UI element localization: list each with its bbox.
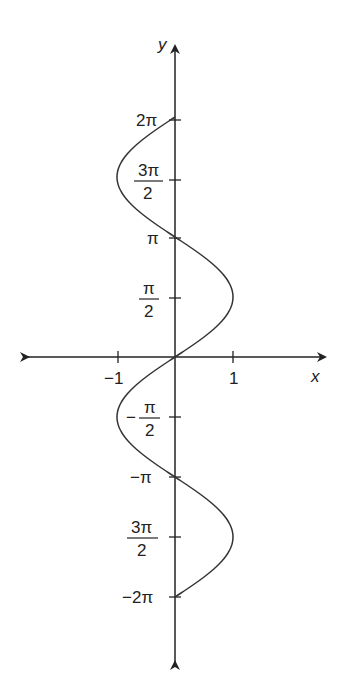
y-label-pi2-den: 2	[144, 302, 153, 321]
y-axis-label: y	[157, 35, 168, 54]
y-label-pi2-num: π	[143, 279, 155, 298]
y-label-negpi2-den: 2	[145, 421, 154, 440]
y-label-neg3pi2-num: 3π	[131, 518, 152, 537]
y-label-negpi2-num: π	[144, 398, 156, 417]
y-label-2pi: 2π	[136, 111, 157, 130]
x-axis-label: x	[310, 367, 320, 386]
y-label-negpi2-minus: −	[126, 408, 136, 427]
y-label-neg3pi2-den: 2	[137, 541, 146, 560]
x-tick-label-1: 1	[229, 369, 238, 388]
y-label-pi: π	[147, 229, 159, 248]
y-label-3pi2-num: 3π	[138, 161, 159, 180]
y-label-negpi: −π	[130, 468, 152, 487]
chart: y x −1 1 2π 3π 2 π π 2 − π 2 −π 3π 2 −2π	[0, 0, 341, 698]
y-label-neg2pi: −2π	[122, 588, 153, 607]
x-tick-label-neg1: −1	[104, 369, 123, 388]
y-label-3pi2-den: 2	[143, 184, 152, 203]
